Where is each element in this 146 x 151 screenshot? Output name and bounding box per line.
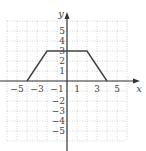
tick-labels: −5−3−113554321−2−3−4−5xy [10, 8, 142, 136]
y-tick-label: 2 [59, 56, 65, 66]
y-tick-label: −2 [52, 96, 65, 106]
x-tick-label: −5 [10, 84, 24, 94]
y-tick-label: 1 [59, 66, 65, 76]
coordinate-plane: −5−3−113554321−2−3−4−5xy [0, 0, 146, 151]
x-tick-label: −1 [50, 84, 63, 94]
y-arrow-icon [65, 12, 70, 19]
y-tick-label: 5 [59, 26, 65, 36]
y-axis-label: y [57, 8, 64, 19]
y-tick-label: 4 [59, 36, 65, 46]
x-tick-label: 5 [114, 84, 120, 94]
y-tick-label: 3 [59, 46, 65, 56]
y-tick-label: −3 [52, 106, 66, 116]
x-axis-label: x [136, 83, 142, 94]
y-tick-label: −5 [52, 126, 66, 136]
x-tick-label: 3 [94, 84, 100, 94]
y-tick-label: −4 [52, 116, 66, 126]
x-tick-label: −3 [30, 84, 44, 94]
x-tick-label: 1 [74, 84, 80, 94]
axes [0, 12, 140, 151]
